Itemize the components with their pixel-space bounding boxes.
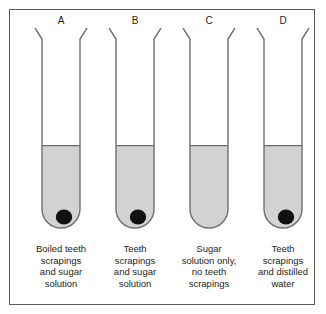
caption-line: no teeth	[167, 266, 251, 278]
test-tube-a	[23, 28, 99, 240]
tube-caption-d: Teethscrapingsand distilledwater	[241, 243, 325, 289]
tube-letter-b: B	[97, 15, 173, 27]
caption-line: scrapings	[167, 278, 251, 290]
caption-line: solution	[19, 278, 103, 290]
caption-line: Boiled teeth	[19, 243, 103, 255]
tube-letter-a: A	[23, 15, 99, 27]
tube-letter-d: D	[245, 15, 321, 27]
tube-caption-c: Sugarsolution only,no teethscrapings	[167, 243, 251, 289]
tube-column-a: ABoiled teethscrapingsand sugarsolution	[23, 10, 99, 306]
tube-caption-a: Boiled teethscrapingsand sugarsolution	[19, 243, 103, 289]
tube-column-b: BTeethscrapingsand sugarsolution	[97, 10, 173, 306]
caption-line: solution only,	[167, 255, 251, 267]
caption-line: and sugar	[93, 266, 177, 278]
caption-line: and sugar	[19, 266, 103, 278]
tube-caption-b: Teethscrapingsand sugarsolution	[93, 243, 177, 289]
caption-line: Sugar	[167, 243, 251, 255]
caption-line: solution	[93, 278, 177, 290]
liquid-fill	[190, 146, 228, 228]
test-tube-diagram: ABoiled teethscrapingsand sugarsolutionB…	[0, 0, 326, 314]
scrapings-deposit	[278, 210, 294, 225]
caption-line: scrapings	[241, 255, 325, 267]
caption-line: scrapings	[93, 255, 177, 267]
tube-column-d: DTeethscrapingsand distilledwater	[245, 10, 321, 306]
caption-line: water	[241, 278, 325, 290]
test-tube-c	[171, 28, 247, 240]
tube-letter-c: C	[171, 15, 247, 27]
tube-column-c: CSugarsolution only,no teethscrapings	[171, 10, 247, 306]
test-tube-d	[245, 28, 321, 240]
scrapings-deposit	[130, 210, 146, 225]
scrapings-deposit	[56, 210, 72, 225]
caption-line: and distilled	[241, 266, 325, 278]
caption-line: scrapings	[19, 255, 103, 267]
diagram-frame: ABoiled teethscrapingsand sugarsolutionB…	[9, 9, 315, 305]
caption-line: Teeth	[93, 243, 177, 255]
caption-line: Teeth	[241, 243, 325, 255]
test-tube-b	[97, 28, 173, 240]
